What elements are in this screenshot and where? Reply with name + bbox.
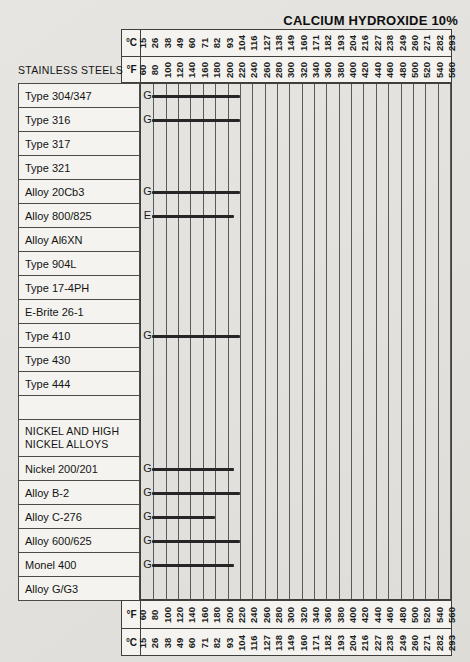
material-name-label: Type 304/347 — [19, 84, 139, 107]
temperature-range-bar — [152, 191, 240, 194]
temp-tick-label: 271 — [422, 30, 432, 56]
temp-tick-label: 380 — [336, 57, 346, 83]
grid-line — [326, 84, 327, 599]
temp-tick-label: 149 — [286, 30, 296, 56]
temp-tick-label: 140 — [187, 602, 197, 628]
temp-tick-label: 71 — [200, 630, 210, 656]
temp-tick-label: 82 — [212, 30, 222, 56]
grid-line — [401, 84, 402, 599]
temp-tick-label: 160 — [200, 602, 210, 628]
stainless-steels-heading: STAINLESS STEELS — [18, 64, 123, 76]
material-row: Nickel 200/201 — [18, 456, 140, 481]
temp-tick-label: 60 — [138, 57, 148, 83]
material-name-label: Alloy 800/825 — [19, 204, 139, 227]
temp-tick-label: 138 — [274, 630, 284, 656]
temp-tick-label: 200 — [225, 57, 235, 83]
temp-tick-label: 227 — [373, 630, 383, 656]
grid-line — [351, 84, 352, 599]
grid-line — [438, 84, 439, 599]
temp-tick-label: 300 — [286, 57, 296, 83]
material-row: Type 410 — [18, 323, 140, 348]
temp-tick-label: 420 — [360, 57, 370, 83]
temp-tick-label: 160 — [299, 30, 309, 56]
grid-line — [289, 84, 290, 599]
temp-tick-label: 380 — [336, 602, 346, 628]
material-row: Type 904L — [18, 251, 140, 276]
nickel-alloys-group-header: NICKEL AND HIGHNICKEL ALLOYS — [18, 419, 140, 457]
temp-tick-label: 240 — [249, 602, 259, 628]
temp-tick-label: 293 — [447, 30, 457, 56]
temp-tick-label: 100 — [163, 602, 173, 628]
temp-tick-label: 182 — [323, 630, 333, 656]
temp-tick-label: 80 — [150, 602, 160, 628]
grid-line — [153, 84, 154, 599]
material-name-label: Type 410 — [19, 324, 139, 347]
temp-tick-label: 80 — [150, 57, 160, 83]
temp-tick-label: 49 — [175, 30, 185, 56]
temp-tick-label: 227 — [373, 30, 383, 56]
grid-line — [277, 84, 278, 599]
temp-tick-label: 271 — [422, 630, 432, 656]
top-temperature-axis: °C °F 1526384960718293104116127138149160… — [121, 29, 452, 83]
temp-tick-label: 500 — [410, 602, 420, 628]
material-row: Type 17-4PH — [18, 275, 140, 300]
material-row: Type 444 — [18, 371, 140, 396]
temperature-range-bar — [152, 335, 240, 338]
temp-tick-label: 260 — [410, 30, 420, 56]
blank-spacer-row — [18, 395, 140, 420]
temp-tick-label: 238 — [385, 30, 395, 56]
grid-line — [363, 84, 364, 599]
material-name-label: Alloy C-276 — [19, 505, 139, 528]
material-name-label: Type 321 — [19, 156, 139, 179]
temp-tick-label: 160 — [299, 630, 309, 656]
grid-line — [339, 84, 340, 599]
material-name-label: Alloy Al6XN — [19, 228, 139, 251]
temp-tick-label: 400 — [348, 57, 358, 83]
temp-tick-label: 93 — [225, 30, 235, 56]
material-name-label: Monel 400 — [19, 553, 139, 576]
grid-line — [376, 84, 377, 599]
temp-tick-label: 82 — [212, 630, 222, 656]
grid-line — [314, 84, 315, 599]
temp-tick-label: 520 — [422, 57, 432, 83]
grid-line — [302, 84, 303, 599]
temperature-range-bar — [152, 564, 234, 567]
temp-tick-label: 204 — [348, 30, 358, 56]
temp-tick-label: 440 — [373, 57, 383, 83]
temp-tick-label: 60 — [187, 630, 197, 656]
temp-tick-label: 38 — [163, 30, 173, 56]
material-name-label: Alloy B-2 — [19, 481, 139, 504]
temp-tick-label: 104 — [237, 630, 247, 656]
temp-tick-label: 60 — [187, 30, 197, 56]
temp-tick-label: 149 — [286, 630, 296, 656]
temp-tick-label: 15 — [138, 630, 148, 656]
grid-line — [252, 84, 253, 599]
temp-tick-label: 480 — [398, 602, 408, 628]
material-row: E-Brite 26-1 — [18, 299, 140, 324]
material-name-label: Type 17-4PH — [19, 276, 139, 299]
grid-line — [388, 84, 389, 599]
temp-tick-label: 116 — [249, 630, 259, 656]
material-row: Type 304/347 — [18, 83, 140, 108]
temperature-range-bar — [152, 119, 240, 122]
material-name-label: Type 444 — [19, 372, 139, 395]
temp-tick-label: 180 — [212, 602, 222, 628]
grid-line — [450, 84, 451, 599]
material-name-label: Type 904L — [19, 252, 139, 275]
grid-line — [215, 84, 216, 599]
temp-tick-label: 220 — [237, 602, 247, 628]
temp-tick-label: 320 — [299, 57, 309, 83]
temperature-grid: GGGEGGGGGG — [140, 83, 452, 600]
temp-tick-label: 500 — [410, 57, 420, 83]
temp-tick-label: 340 — [311, 602, 321, 628]
temp-tick-label: 200 — [225, 602, 235, 628]
grid-line — [265, 84, 266, 599]
temp-tick-label: 360 — [323, 602, 333, 628]
grid-line — [413, 84, 414, 599]
temp-tick-label: 193 — [336, 30, 346, 56]
temp-tick-label: 520 — [422, 602, 432, 628]
temp-tick-label: 560 — [447, 602, 457, 628]
temperature-range-bar — [152, 468, 234, 471]
material-row: Alloy 20Cb3 — [18, 179, 140, 204]
grid-line — [425, 84, 426, 599]
